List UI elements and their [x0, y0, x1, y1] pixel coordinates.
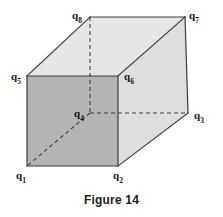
vertex-label-q7: q7 — [189, 10, 199, 24]
vertex-subscript: 6 — [130, 77, 134, 86]
vertex-subscript: 4 — [80, 114, 84, 123]
vertex-subscript: 5 — [17, 77, 21, 86]
vertex-subscript: 8 — [78, 16, 82, 25]
vertex-subscript: 3 — [200, 116, 204, 125]
cube-diagram — [0, 0, 223, 217]
vertex-label-q8: q8 — [72, 10, 82, 24]
vertex-subscript: 2 — [119, 176, 123, 185]
figure-container: q1 q2 q3 q4 q5 q6 q7 q8 Figure 14 — [0, 0, 223, 217]
figure-caption: Figure 14 — [0, 193, 223, 207]
vertex-label-q4: q4 — [74, 108, 84, 122]
vertex-label-q3: q3 — [194, 110, 204, 124]
vertex-label-q1: q1 — [16, 170, 26, 184]
cube-faces — [27, 17, 188, 166]
vertex-label-q2: q2 — [113, 170, 123, 184]
front-face — [27, 76, 118, 166]
vertex-subscript: 1 — [22, 176, 26, 185]
vertex-subscript: 7 — [195, 16, 199, 25]
vertex-label-q5: q5 — [11, 71, 21, 85]
vertex-label-q6: q6 — [124, 71, 134, 85]
